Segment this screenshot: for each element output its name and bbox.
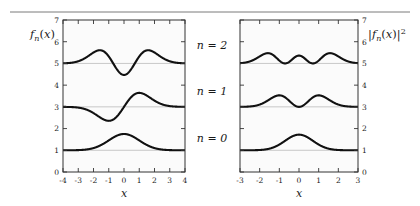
figure-container: -4-3-2-10123401234567x-3-2-1012301234567…: [0, 0, 420, 206]
y-tick-label: 4: [54, 81, 59, 90]
x-tick-label: 2: [336, 176, 341, 185]
x-axis-label: x: [121, 187, 128, 200]
y-tick-label: 0: [54, 168, 59, 177]
y-tick-label: 7: [362, 16, 367, 25]
annotation-label-n2: n = 2: [197, 39, 227, 52]
x-tick-label: 3: [167, 176, 172, 185]
y-tick-label: 5: [54, 59, 59, 68]
y-tick-label: 7: [54, 16, 59, 25]
x-tick-label: -2: [256, 176, 264, 185]
y-tick-label: 2: [362, 124, 367, 133]
plot-panel-right: -3-2-1012301234567x: [236, 16, 367, 200]
annotation-label-n1: n = 1: [197, 85, 227, 98]
y-tick-label: 1: [362, 146, 367, 155]
x-tick-label: -3: [236, 176, 244, 185]
y-tick-label: 6: [362, 38, 367, 47]
y-tick-label: 4: [362, 81, 367, 90]
plot-panel-left: -4-3-2-10123401234567x: [54, 16, 187, 200]
right-y-axis-label: |fn(x)|2: [368, 27, 406, 43]
x-tick-label: 4: [183, 176, 188, 185]
x-tick-label: -4: [59, 176, 67, 185]
y-tick-label: 1: [54, 146, 59, 155]
x-tick-label: 0: [297, 176, 302, 185]
x-tick-label: 1: [316, 176, 321, 185]
x-tick-label: -1: [276, 176, 283, 185]
annotation-label-n0: n = 0: [197, 132, 227, 145]
x-tick-label: -1: [105, 176, 112, 185]
y-tick-label: 5: [362, 59, 367, 68]
x-axis-label: x: [296, 187, 303, 200]
x-tick-label: 3: [356, 176, 361, 185]
y-tick-label: 2: [54, 124, 59, 133]
x-tick-label: -2: [90, 176, 98, 185]
quantum-harmonic-oscillator-figure: -4-3-2-10123401234567x-3-2-1012301234567…: [0, 0, 420, 206]
y-tick-label: 3: [54, 103, 59, 112]
x-tick-label: 1: [137, 176, 142, 185]
x-tick-label: -3: [75, 176, 83, 185]
left-y-axis-label: fn(x): [29, 27, 55, 43]
x-tick-label: 0: [122, 176, 127, 185]
y-tick-label: 0: [362, 168, 367, 177]
x-tick-label: 2: [152, 176, 157, 185]
y-tick-label: 3: [362, 103, 367, 112]
